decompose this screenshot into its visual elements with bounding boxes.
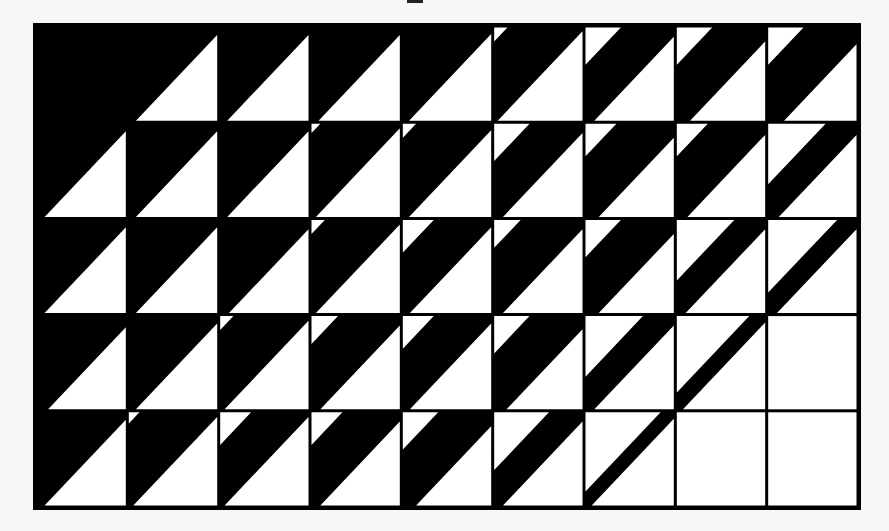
grid-cell xyxy=(767,26,858,122)
grid-cell xyxy=(584,411,675,507)
grid-cell xyxy=(768,316,856,409)
grid-cell xyxy=(401,315,492,411)
grid-cell xyxy=(310,26,401,122)
grid-cell xyxy=(584,315,675,411)
grid-cell xyxy=(310,218,401,314)
grid-cell xyxy=(675,122,766,218)
grid-cell xyxy=(219,218,310,314)
grid-cell xyxy=(36,315,127,411)
grid-cell xyxy=(493,315,584,411)
grid-cell xyxy=(493,26,584,122)
grid-cell xyxy=(36,26,127,122)
grid-cell xyxy=(36,122,127,218)
grid-cell xyxy=(401,218,492,314)
grid-cell xyxy=(36,218,127,314)
grid-cell xyxy=(127,315,218,411)
grid-cell xyxy=(219,315,310,411)
grid-cell xyxy=(767,122,858,218)
grid-cell xyxy=(584,26,675,122)
grid-cell xyxy=(584,122,675,218)
grid-cell xyxy=(310,315,401,411)
grid-cell xyxy=(768,412,856,505)
grid-cell xyxy=(36,411,127,507)
grid-cell xyxy=(493,122,584,218)
grid-cell xyxy=(584,218,675,314)
grid-cell xyxy=(310,411,401,507)
grid-cell xyxy=(401,26,492,122)
grid-cell xyxy=(127,122,218,218)
grid-cell xyxy=(219,122,310,218)
grid-cell xyxy=(767,218,858,314)
grid-cell xyxy=(677,412,765,505)
grid-cell xyxy=(127,411,218,507)
grid-cell xyxy=(401,122,492,218)
grid-cell xyxy=(675,218,766,314)
grid-cell xyxy=(127,218,218,314)
grid-cell xyxy=(675,26,766,122)
grid-cell xyxy=(675,315,766,411)
grid-cell xyxy=(493,218,584,314)
grid-cell xyxy=(401,411,492,507)
grid-cell xyxy=(219,26,310,122)
grid-cell xyxy=(127,26,218,122)
grid-cell xyxy=(493,411,584,507)
grid-cell xyxy=(219,411,310,507)
grid-cell xyxy=(310,122,401,218)
triangle-grid-figure xyxy=(0,0,889,531)
